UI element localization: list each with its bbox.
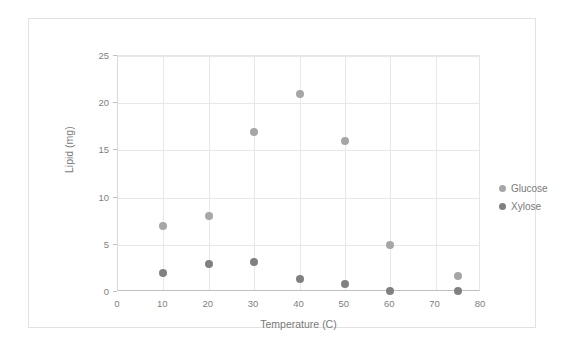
legend-item-xylose[interactable]: Xylose <box>499 197 564 215</box>
data-point <box>386 241 394 249</box>
gridline-vertical <box>345 56 346 290</box>
data-point <box>454 272 462 280</box>
y-axis-tick-label: 10 <box>75 191 109 202</box>
x-axis-tick-label: 70 <box>429 298 440 309</box>
data-point <box>250 128 258 136</box>
gridline-horizontal <box>118 56 479 57</box>
data-point <box>341 280 349 288</box>
y-axis-tick-label: 25 <box>75 50 109 61</box>
chart-frame: 0510152025 01020304050607080 Lipid (mg) … <box>28 18 536 328</box>
gridline-horizontal <box>118 198 479 199</box>
y-axis-tick-label: 20 <box>75 97 109 108</box>
gridline-vertical <box>254 56 255 290</box>
gridline-vertical <box>436 56 437 290</box>
data-point <box>296 275 304 283</box>
y-axis-tick-mark <box>113 291 117 292</box>
x-axis-tick-label: 50 <box>339 298 350 309</box>
x-axis-tick-label: 30 <box>248 298 259 309</box>
y-axis-tick-mark <box>113 55 117 56</box>
data-point <box>454 287 462 295</box>
data-point <box>250 258 258 266</box>
legend-marker-icon <box>499 185 506 192</box>
y-axis-tick-label: 0 <box>75 286 109 297</box>
y-axis-tick-mark <box>113 102 117 103</box>
y-axis-tick-label: 15 <box>75 144 109 155</box>
chart-figure: 0510152025 01020304050607080 Lipid (mg) … <box>0 0 564 346</box>
x-axis-tick-label: 60 <box>384 298 395 309</box>
gridline-horizontal <box>118 245 479 246</box>
legend-marker-icon <box>499 203 506 210</box>
x-axis-tick-label: 40 <box>293 298 304 309</box>
x-axis-title: Temperature (C) <box>117 318 480 330</box>
gridline-vertical <box>163 56 164 290</box>
data-point <box>159 222 167 230</box>
y-axis-tick-mark <box>113 244 117 245</box>
data-point <box>205 260 213 268</box>
data-point <box>341 137 349 145</box>
chart-legend: GlucoseXylose <box>499 179 564 215</box>
data-point <box>205 212 213 220</box>
x-axis-tick-label: 10 <box>157 298 168 309</box>
x-axis-tick-label: 20 <box>202 298 213 309</box>
gridline-horizontal <box>118 150 479 151</box>
y-axis-tick-mark <box>113 149 117 150</box>
y-axis-tick-mark <box>113 197 117 198</box>
data-point <box>159 269 167 277</box>
plot-area <box>117 55 480 291</box>
y-axis-tick-label: 5 <box>75 238 109 249</box>
legend-item-glucose[interactable]: Glucose <box>499 179 564 197</box>
data-point <box>386 287 394 295</box>
legend-label: Glucose <box>511 183 548 194</box>
x-axis-tick-label: 80 <box>475 298 486 309</box>
gridline-horizontal <box>118 103 479 104</box>
legend-label: Xylose <box>511 201 541 212</box>
y-axis-title: Lipid (mg) <box>63 126 75 173</box>
x-axis-tick-label: 0 <box>114 298 119 309</box>
data-point <box>296 90 304 98</box>
gridline-vertical <box>390 56 391 290</box>
gridline-vertical <box>209 56 210 290</box>
